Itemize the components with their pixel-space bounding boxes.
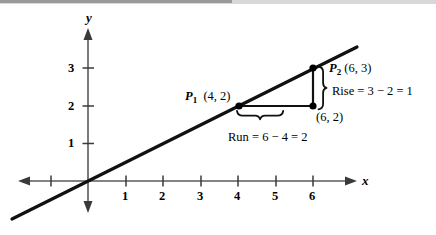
point-p1-coords: (4, 2) [203,89,230,103]
point-p2 [309,64,316,71]
y-tick-label-2: 2 [68,100,74,113]
point-corner [309,102,316,109]
x-axis-label: x [362,174,369,187]
x-tick-label-5: 5 [272,190,278,203]
x-tick-label-3: 3 [197,190,203,203]
run-brace [237,111,283,119]
run-equation-label: Run = 6 − 4 = 2 [228,131,308,144]
x-tick-label-4: 4 [234,190,240,203]
point-p2-coords: (6, 3) [344,61,371,75]
y-tick-label-3: 3 [68,62,74,75]
point-p2-label: P2 (6, 3) [329,62,371,77]
x-tick-label-2: 2 [159,190,165,203]
point-p1-label: P1 (4, 2) [185,90,230,105]
point-p1 [235,102,242,109]
x-tick-label-1: 1 [122,190,128,203]
x-tick-label-6: 6 [309,190,315,203]
y-axis-label: y [86,11,92,24]
rise-brace [319,67,327,110]
plot-layer [0,0,436,235]
point-p2-name: P [329,61,337,75]
y-tick-label-1: 1 [68,137,74,150]
point-corner-label: (6, 2) [316,111,343,124]
rise-equation-label: Rise = 3 − 2 = 1 [332,85,413,98]
slope-figure: 1 2 3 4 5 6 3 2 1 y x P1 (4, 2) P2 (6, 3… [0,0,436,235]
point-p2-subscript: 2 [337,67,342,77]
point-p1-subscript: 1 [193,95,198,105]
point-p1-name: P [185,89,193,103]
